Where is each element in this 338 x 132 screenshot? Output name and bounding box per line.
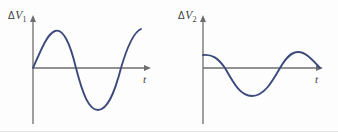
chart-left-curve — [33, 29, 141, 110]
chart-right-delta-glyph: Δ — [178, 10, 185, 21]
chart-left-y-axis-arrowhead — [30, 15, 36, 22]
chart-left-subscript: 1 — [23, 15, 27, 24]
chart-left-delta-glyph: Δ — [8, 10, 15, 21]
chart-right-y-axis-arrowhead — [200, 15, 206, 22]
chart-right-subscript: 2 — [193, 15, 197, 24]
chart-right: ΔV2 t — [178, 9, 323, 124]
chart-right-curve — [203, 52, 320, 96]
chart-left-x-axis-arrowhead — [144, 65, 151, 71]
chart-right-x-axis-label: t — [315, 73, 319, 85]
figure-container: ΔV1 t ΔV2 t — [0, 0, 338, 132]
chart-left-x-axis-label: t — [143, 73, 147, 85]
chart-right-y-axis-label: ΔV2 — [178, 9, 197, 24]
waveform-figure: ΔV1 t ΔV2 t — [0, 0, 338, 132]
chart-left: ΔV1 t — [8, 9, 151, 124]
chart-left-y-axis-label: ΔV1 — [8, 9, 27, 24]
